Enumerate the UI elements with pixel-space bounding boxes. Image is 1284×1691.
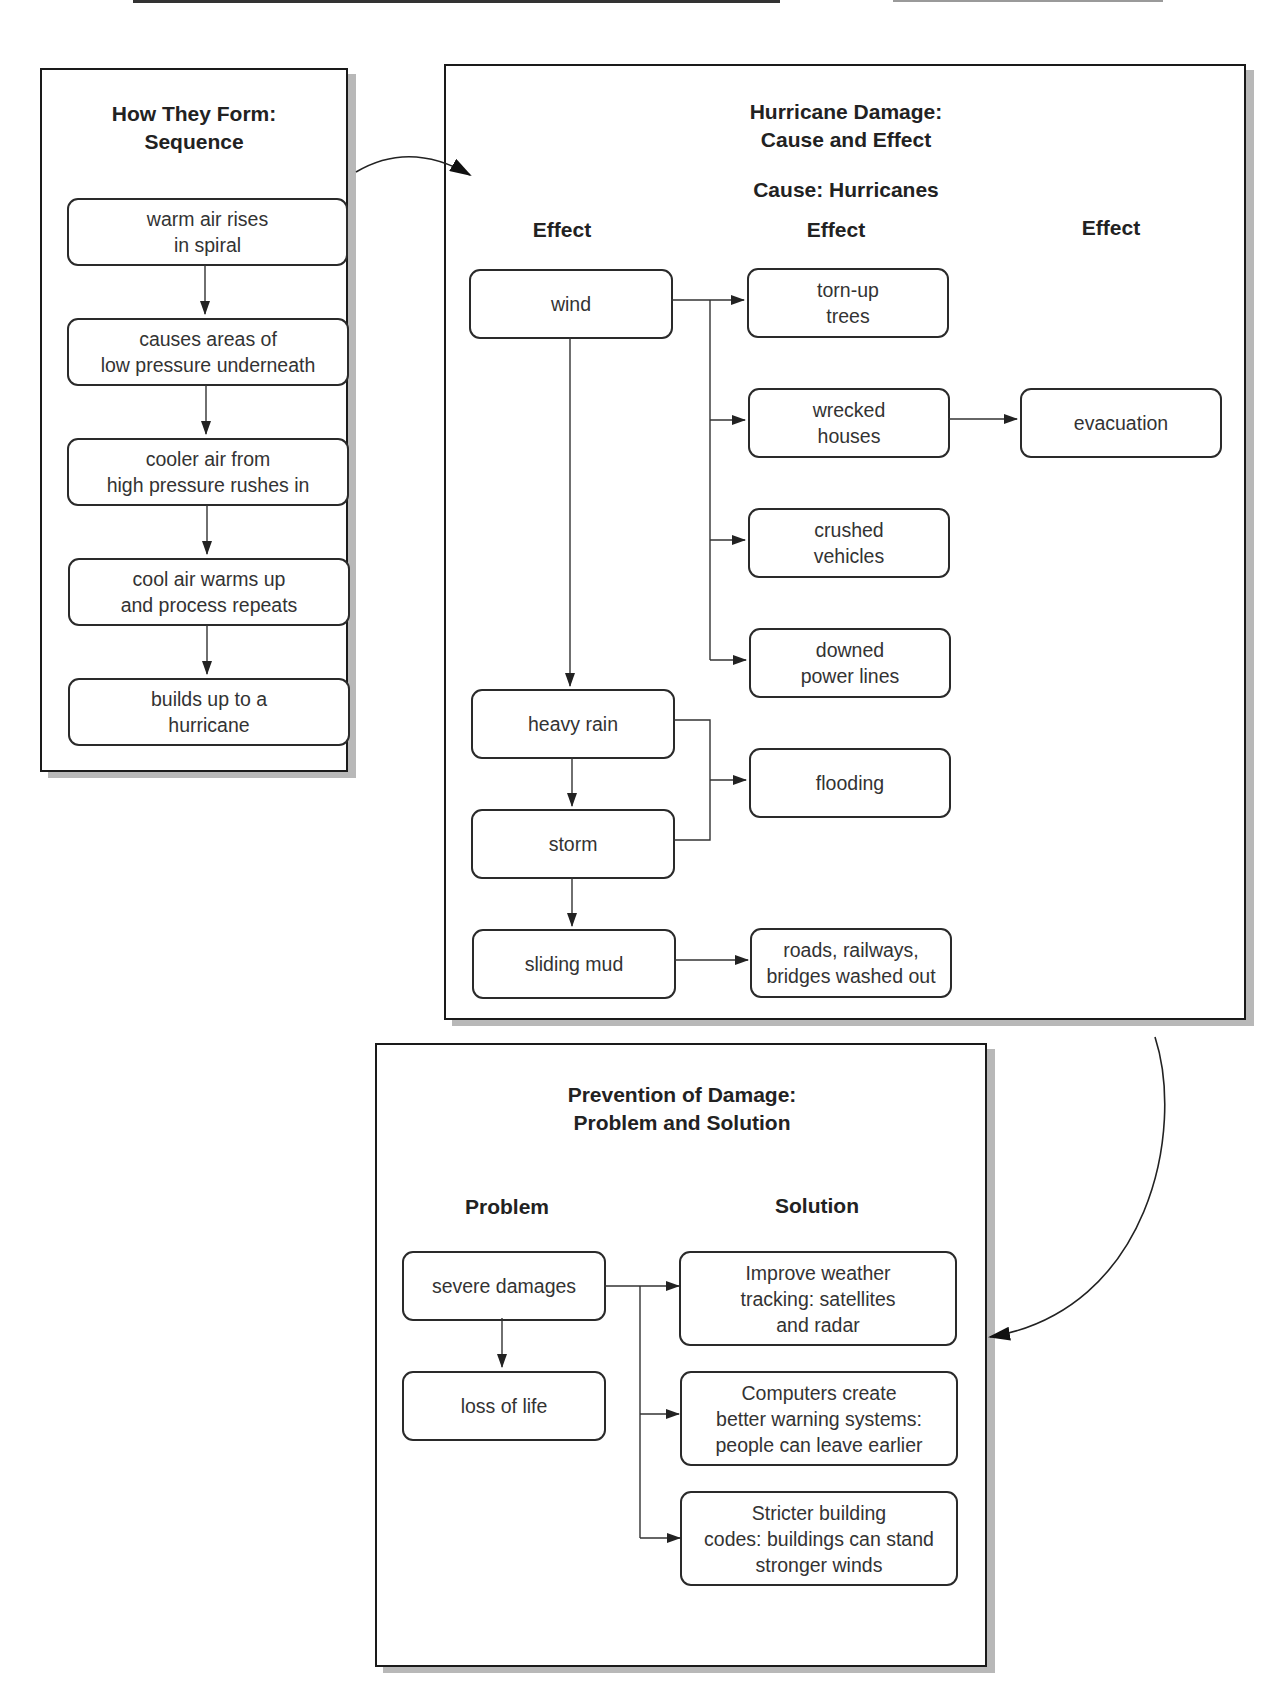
problem-solution-title-line2: Problem and Solution bbox=[377, 1109, 987, 1137]
effect-column-header-1: Effect bbox=[502, 218, 622, 242]
cause-label: Cause: Hurricanes bbox=[446, 176, 1246, 204]
solution-building-codes: Stricter building codes: buildings can s… bbox=[680, 1491, 958, 1586]
effect-torn-up-trees: torn-up trees bbox=[747, 268, 949, 338]
sequence-title-line1: How They Form: bbox=[42, 100, 346, 128]
cause-effect-title-line1: Hurricane Damage: bbox=[446, 98, 1246, 126]
effect-downed-power-lines: downed power lines bbox=[749, 628, 951, 698]
problem-loss-of-life: loss of life bbox=[402, 1371, 606, 1441]
solution-header: Solution bbox=[747, 1194, 887, 1218]
sequence-step: cooler air from high pressure rushes in bbox=[67, 438, 349, 506]
sequence-step: cool air warms up and process repeats bbox=[68, 558, 350, 626]
sequence-step: warm air rises in spiral bbox=[67, 198, 348, 266]
effect-roads-washed-out: roads, railways, bridges washed out bbox=[750, 928, 952, 998]
effect-crushed-vehicles: crushed vehicles bbox=[748, 508, 950, 578]
cause-effect-panel: Hurricane Damage: Cause and Effect Cause… bbox=[444, 64, 1246, 1020]
cause-effect-title-line2: Cause and Effect bbox=[446, 126, 1246, 154]
effect-column-header-2: Effect bbox=[776, 218, 896, 242]
sequence-panel: How They Form: Sequence warm air rises i… bbox=[40, 68, 348, 772]
effect-storm: storm bbox=[471, 809, 675, 879]
effect-sliding-mud: sliding mud bbox=[472, 929, 676, 999]
sequence-step: causes areas of low pressure underneath bbox=[67, 318, 349, 386]
sequence-title-line2: Sequence bbox=[42, 128, 346, 156]
effect-column-header-3: Effect bbox=[1051, 216, 1171, 240]
effect-heavy-rain: heavy rain bbox=[471, 689, 675, 759]
problem-header: Problem bbox=[437, 1195, 577, 1219]
effect-wrecked-houses: wrecked houses bbox=[748, 388, 950, 458]
top-rule-left bbox=[133, 0, 780, 3]
effect-wind: wind bbox=[469, 269, 673, 339]
transition-arrow-to-problem-solution bbox=[990, 1037, 1165, 1337]
top-rule-right bbox=[893, 0, 1163, 2]
problem-severe-damages: severe damages bbox=[402, 1251, 606, 1321]
problem-solution-panel: Prevention of Damage: Problem and Soluti… bbox=[375, 1043, 987, 1667]
effect-flooding: flooding bbox=[749, 748, 951, 818]
sequence-step: builds up to a hurricane bbox=[68, 678, 350, 746]
problem-solution-title-line1: Prevention of Damage: bbox=[377, 1081, 987, 1109]
solution-warning-systems: Computers create better warning systems:… bbox=[680, 1371, 958, 1466]
solution-weather-tracking: Improve weather tracking: satellites and… bbox=[679, 1251, 957, 1346]
effect-evacuation: evacuation bbox=[1020, 388, 1222, 458]
